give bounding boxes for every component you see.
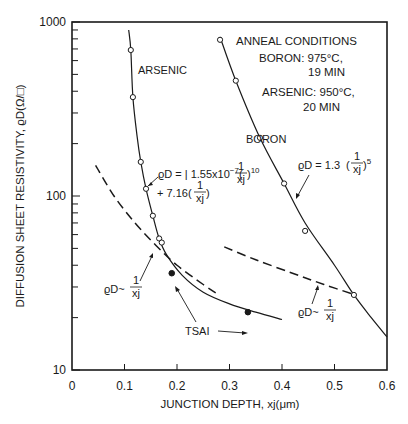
boron-fit-equation: ϱD = 1.3 ( 1 xj )5 [296, 150, 372, 199]
inverse-xj-annotation-right: ϱD~ 1 xj [298, 285, 336, 322]
x-tick-label: 0.6 [379, 379, 396, 393]
svg-text:xj: xj [196, 192, 204, 204]
curve-boron [220, 37, 387, 337]
data-point-boron [233, 78, 238, 83]
svg-text:ϱD~: ϱD~ [104, 283, 125, 295]
data-point-arsenic [159, 240, 164, 245]
y-tick-label: 1000 [39, 15, 66, 29]
svg-text:ϱD~: ϱD~ [298, 306, 319, 318]
y-axis-ticks: 101001000 [39, 15, 80, 377]
svg-text:xj: xj [353, 163, 361, 175]
data-point-boron [217, 37, 222, 42]
data-point-arsenic [128, 47, 133, 52]
svg-text:TSAI: TSAI [185, 325, 209, 337]
svg-text:ϱD = | 1.55x10−7(: ϱD = | 1.55x10−7( [158, 166, 243, 180]
arsenic-fit-equation: ϱD = | 1.55x10−7( 1 xj )10 + 7.16( 1 xj … [148, 160, 260, 204]
data-point-boron [303, 228, 308, 233]
data-point-arsenic [143, 186, 148, 191]
x-axis-title: JUNCTION DEPTH, xj(μm) [161, 398, 300, 410]
x-tick-label: 0.1 [116, 379, 133, 393]
legend-title: ANNEAL CONDITIONS [236, 35, 357, 47]
svg-text:): ) [206, 187, 210, 199]
legend-boron-line1: BORON: 975°C, [259, 52, 343, 64]
y-tick-label: 100 [46, 189, 66, 203]
x-tick-label: 0.3 [221, 379, 238, 393]
svg-text:ϱD = 1.3: ϱD = 1.3 [298, 159, 340, 171]
data-point-arsenic [130, 95, 135, 100]
svg-text:(: ( [346, 159, 350, 171]
x-tick-label: 0 [69, 379, 76, 393]
boron-label: BORON [246, 133, 286, 145]
legend-arsenic-line2: 20 MIN [303, 101, 340, 113]
svg-text:1: 1 [354, 150, 360, 162]
svg-text:1: 1 [238, 160, 244, 172]
arsenic-label: ARSENIC [138, 64, 187, 76]
sheet-resistivity-chart: 00.10.20.30.40.50.6 101001000 DIFFUSION … [0, 0, 408, 424]
svg-text:1: 1 [327, 297, 333, 309]
y-axis-title: DIFFUSION SHEET RESISTIVITY, ϱD(Ω/□) [14, 84, 26, 307]
data-point-arsenic [138, 159, 143, 164]
svg-text:1: 1 [133, 274, 139, 286]
data-point-boron [351, 292, 356, 297]
data-point-arsenic [150, 213, 155, 218]
tsai-annotation: TSAI [175, 286, 248, 337]
curve--d-xj-boron- [224, 247, 355, 295]
svg-text:+ 7.16(: + 7.16( [157, 187, 192, 199]
inverse-xj-annotation-left: ϱD~ 1 xj [104, 253, 153, 299]
x-tick-label: 0.2 [169, 379, 186, 393]
anneal-conditions-legend: ANNEAL CONDITIONS BORON: 975°C, 19 MIN A… [236, 35, 357, 113]
x-axis-ticks: 00.10.20.30.40.50.6 [69, 364, 396, 393]
svg-text:xj: xj [326, 310, 334, 322]
data-point-tsai [245, 309, 251, 315]
x-tick-label: 0.5 [326, 379, 343, 393]
svg-text:)10: )10 [247, 166, 260, 180]
svg-text:xj: xj [132, 287, 140, 299]
svg-text:xj: xj [237, 173, 245, 185]
svg-text:1: 1 [197, 179, 203, 191]
data-point-boron [282, 181, 287, 186]
y-tick-label: 10 [53, 363, 67, 377]
x-tick-label: 0.4 [274, 379, 291, 393]
legend-arsenic-line1: ARSENIC: 950°C, [262, 86, 355, 98]
data-point-tsai [169, 270, 175, 276]
legend-boron-line2: 19 MIN [308, 66, 345, 78]
svg-text:)5: )5 [363, 157, 372, 171]
